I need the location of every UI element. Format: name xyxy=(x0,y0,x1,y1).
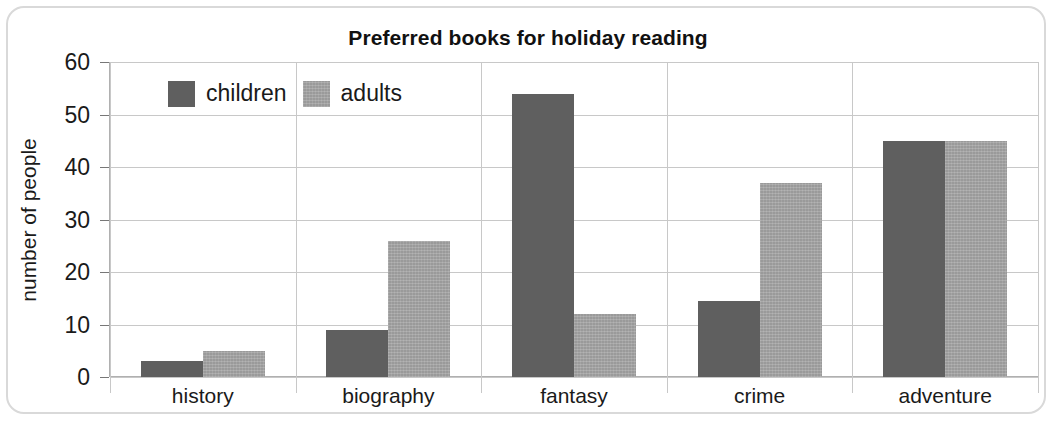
y-tick-mark xyxy=(100,377,109,378)
bar-crime-adults xyxy=(760,183,822,377)
y-gridline xyxy=(110,377,1038,378)
y-tick-label: 60 xyxy=(28,49,90,76)
bar-history-children xyxy=(141,361,203,377)
x-tick-label-history: history xyxy=(110,384,296,408)
y-tick-label: 40 xyxy=(28,154,90,181)
children-color-swatch-icon xyxy=(168,81,195,107)
y-tick-label: 0 xyxy=(28,364,90,391)
y-tick-label: 10 xyxy=(28,311,90,338)
y-tick-label: 30 xyxy=(28,206,90,233)
category-separator-line xyxy=(1038,62,1039,393)
legend-label-adults: adults xyxy=(341,80,402,107)
x-tick-label-adventure: adventure xyxy=(852,384,1038,408)
y-tick-label: 20 xyxy=(28,259,90,286)
category-separator-line xyxy=(852,62,853,393)
y-gridline xyxy=(110,115,1038,116)
legend-entry-adults: adults xyxy=(303,80,402,107)
y-tick-label: 50 xyxy=(28,101,90,128)
adults-color-swatch-icon xyxy=(303,81,330,107)
y-tick-mark xyxy=(100,220,109,221)
bar-fantasy-children xyxy=(512,94,574,378)
x-tick-label-fantasy: fantasy xyxy=(481,384,667,408)
legend-entry-children: children xyxy=(168,80,287,107)
plot-area: 0102030405060historybiographyfantasycrim… xyxy=(110,62,1038,377)
x-tick-label-biography: biography xyxy=(296,384,482,408)
category-separator-line xyxy=(481,62,482,393)
bar-biography-children xyxy=(326,330,388,377)
bar-biography-adults xyxy=(388,241,450,378)
bar-adventure-adults xyxy=(945,141,1007,377)
x-tick-label-crime: crime xyxy=(667,384,853,408)
category-separator-line xyxy=(667,62,668,393)
y-tick-mark xyxy=(100,62,109,63)
legend-label-children: children xyxy=(206,80,287,107)
chart-legend: children adults xyxy=(168,80,402,107)
y-tick-mark xyxy=(100,115,109,116)
y-gridline xyxy=(110,62,1038,63)
bar-adventure-children xyxy=(883,141,945,377)
chart-title: Preferred books for holiday reading xyxy=(8,26,1048,50)
y-tick-mark xyxy=(100,167,109,168)
y-tick-mark xyxy=(100,325,109,326)
bar-crime-children xyxy=(698,301,760,377)
chart-figure-frame: Preferred books for holiday reading numb… xyxy=(6,6,1046,414)
category-separator-line xyxy=(296,62,297,393)
y-tick-mark xyxy=(100,272,109,273)
category-separator-line xyxy=(110,62,111,393)
bar-history-adults xyxy=(203,351,265,377)
bar-fantasy-adults xyxy=(574,314,636,377)
